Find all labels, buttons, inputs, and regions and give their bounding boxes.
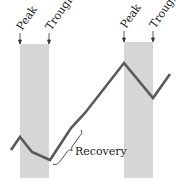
- trough-label-1: Trough: [43, 0, 77, 33]
- business-cycle-diagram: Peak Trough Peak Trough Recovery: [0, 0, 182, 183]
- peak-label-2: Peak: [118, 1, 144, 31]
- trough-marker-1: [48, 33, 51, 44]
- recovery-label: Recovery: [75, 145, 128, 158]
- peak-label-1: Peak: [14, 3, 40, 33]
- trough-label-2: Trough: [147, 0, 181, 31]
- peak-marker-1: [19, 33, 22, 44]
- peak-marker-2: [123, 31, 126, 42]
- trough-marker-2: [152, 31, 155, 42]
- recession-band-2: [124, 42, 153, 178]
